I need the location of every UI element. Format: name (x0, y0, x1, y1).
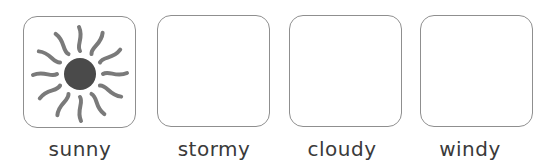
sun-core (64, 58, 96, 90)
weather-card-sunny[interactable] (23, 16, 136, 128)
label-windy: windy (405, 137, 535, 161)
weather-card-cloudy[interactable] (289, 15, 402, 127)
label-stormy: stormy (149, 137, 279, 161)
sun-icon (24, 17, 134, 126)
weather-card-stormy[interactable] (157, 15, 270, 127)
label-cloudy: cloudy (277, 137, 407, 161)
weather-card-windy[interactable] (420, 15, 533, 127)
label-sunny: sunny (15, 137, 145, 161)
